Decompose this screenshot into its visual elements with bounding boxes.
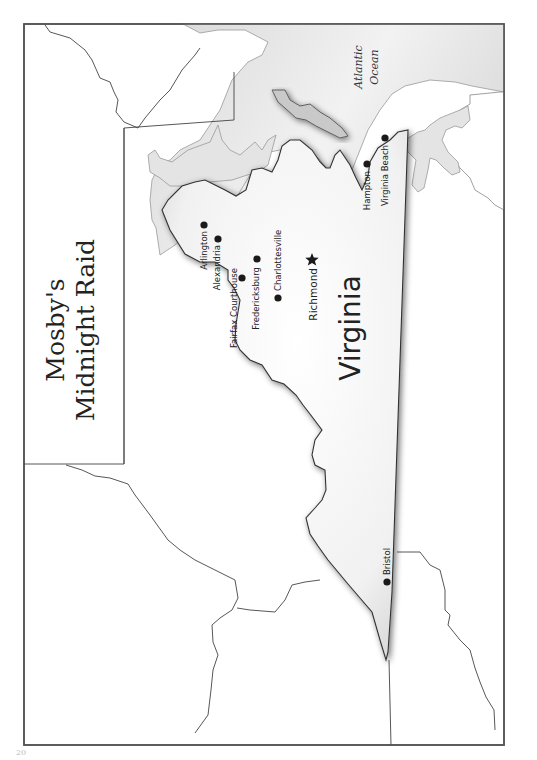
city-label-arlington: Arlington <box>199 231 209 270</box>
map-title-line2: Midnight Raid <box>71 239 100 421</box>
state-label: Virginia <box>334 275 367 381</box>
city-label-fairfax-courthouse: Fairfax Courthouse <box>229 268 239 348</box>
city-marker-charlottesville <box>274 294 281 301</box>
map-title-line1: Mosby's <box>41 278 70 381</box>
city-label-bristol: Bristol <box>382 548 392 575</box>
city-marker-bristol <box>383 578 390 585</box>
page-number: 20 <box>16 748 26 757</box>
city-marker-alexandria <box>214 235 221 242</box>
city-marker-fredericksburg <box>253 255 260 262</box>
city-label-fredericksburg: Fredericksburg <box>251 267 261 330</box>
city-label-hampton: Hampton <box>362 171 372 210</box>
city-marker-fairfax-courthouse <box>238 274 245 281</box>
city-marker-arlington <box>200 221 207 228</box>
city-label-richmond: Richmond <box>307 268 319 321</box>
city-marker-virginia-beach <box>381 134 388 141</box>
ocean-label-line1: Atlantic <box>352 45 365 89</box>
ocean-label-line2: Ocean <box>368 49 381 84</box>
city-label-charlottesville: Charlottesville <box>273 230 283 291</box>
city-marker-hampton <box>363 160 370 167</box>
map: Mosby's Midnight Raid Atlantic Ocean Vir… <box>0 0 537 760</box>
city-label-alexandria: Alexandria <box>212 245 222 290</box>
city-label-virginia-beach: Virginia Beach <box>380 145 390 206</box>
